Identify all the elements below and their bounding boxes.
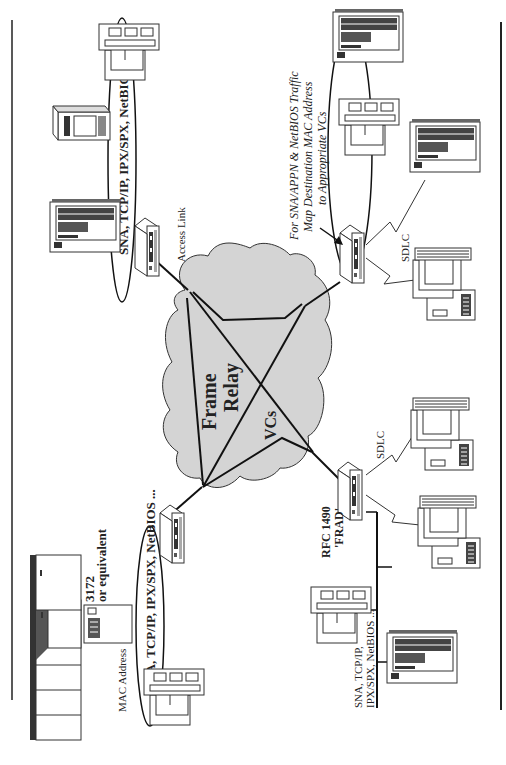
frad-top-right xyxy=(340,225,364,283)
cloud-label-frame: Frame xyxy=(198,373,220,430)
note-line-3: to Appropriate VCs xyxy=(315,111,329,205)
controller-3172 xyxy=(84,605,132,643)
access-link-bottom-right xyxy=(312,452,340,480)
cloud-label-relay: Relay xyxy=(220,363,243,412)
server-tower-2 xyxy=(53,106,110,140)
sdlc-link-bottom-right-1 xyxy=(366,437,412,475)
workstation-1 xyxy=(99,24,159,80)
bus-lan-protocols-line1: SNA, TCP/IP, xyxy=(352,646,364,708)
bottom-left-lan-protocols: SNA, TCP/IP, IPX/SPX, NetBIOS ... xyxy=(143,489,158,690)
server-tower-5 xyxy=(387,630,457,683)
router-top-left xyxy=(135,218,159,276)
router-bottom-left xyxy=(160,505,184,563)
terminal-2 xyxy=(411,398,473,470)
server-tower-4 xyxy=(410,119,480,172)
workstation-3 xyxy=(339,99,399,155)
network-diagram: Frame Relay VCs SNA, TCP/IP, IPX/SPX, Ne… xyxy=(0,0,506,765)
server-tower-3 xyxy=(333,9,403,62)
workstation-4 xyxy=(311,587,371,643)
controller-label-equivalent: or equivalent xyxy=(94,528,109,602)
note-line-2: Map Destination MAC Address xyxy=(301,81,315,233)
vcs-label: VCs xyxy=(262,411,279,440)
server-tower-1 xyxy=(50,199,120,252)
frad-label-frad: 'FRAD' xyxy=(332,508,346,548)
mac-address-label: MAC Address xyxy=(116,649,128,712)
frad-label-rfc1490: RFC 1490 xyxy=(319,506,333,558)
sdlc-label-bottom-right: SDLC xyxy=(374,431,386,459)
sdlc-link-top-right-1 xyxy=(366,180,425,245)
sdlc-label-top-right: SDLC xyxy=(399,234,411,262)
note-line-1: For SNA/APPN & NetBIOS Traffic xyxy=(287,71,301,241)
mainframe xyxy=(30,555,81,740)
terminal-3 xyxy=(418,496,480,568)
workstation-2 xyxy=(144,669,204,725)
bus-lan-protocols-line2: IPX/SPX, NetBIOS ... xyxy=(364,609,376,708)
access-link-label: Access Link xyxy=(175,207,187,262)
sdlc-link-bottom-right-2 xyxy=(366,495,420,525)
terminal-1 xyxy=(413,248,475,320)
